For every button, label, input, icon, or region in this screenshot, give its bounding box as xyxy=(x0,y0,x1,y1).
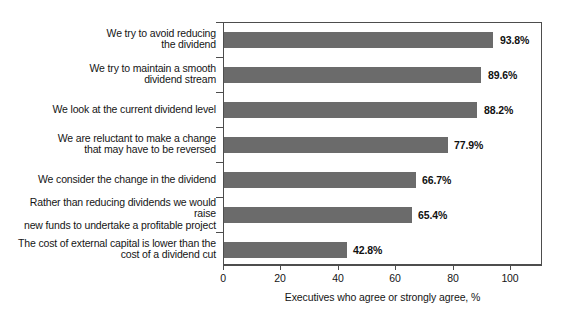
x-axis-tick-label: 60 xyxy=(389,272,400,284)
y-axis-tick xyxy=(216,22,223,23)
y-axis-label: We try to maintain a smooth dividend str… xyxy=(8,63,216,87)
x-axis-tick-label: 20 xyxy=(274,272,285,284)
y-axis-tick xyxy=(216,232,223,233)
x-axis-tick xyxy=(223,265,224,270)
x-axis-tick-label: 80 xyxy=(447,272,458,284)
x-axis-tick-label: 100 xyxy=(501,272,518,284)
bar-value-label: 93.8% xyxy=(500,34,529,46)
x-axis-tick xyxy=(510,265,511,270)
x-axis-tick xyxy=(453,265,454,270)
bar-value-label: 66.7% xyxy=(422,174,451,186)
chart-row: We look at the current dividend level 88… xyxy=(0,92,563,127)
bar-value-label: 77.9% xyxy=(454,139,483,151)
bar-chart: We try to avoid reducing the dividend 93… xyxy=(0,0,563,318)
bar xyxy=(224,102,477,118)
y-axis-tick xyxy=(216,57,223,58)
chart-row: We try to avoid reducing the dividend 93… xyxy=(0,22,563,57)
y-axis-tick xyxy=(216,92,223,93)
bar xyxy=(224,32,493,48)
y-axis-tick xyxy=(216,162,223,163)
x-axis-tick xyxy=(395,265,396,270)
y-axis-label: We are reluctant to make a change that m… xyxy=(8,133,216,157)
bar-value-label: 65.4% xyxy=(418,209,447,221)
x-axis-tick-label: 40 xyxy=(332,272,343,284)
chart-row: The cost of external capital is lower th… xyxy=(0,232,563,267)
bar xyxy=(224,242,347,258)
y-axis-label: The cost of external capital is lower th… xyxy=(8,238,216,262)
bar xyxy=(224,67,481,83)
y-axis-tick xyxy=(216,197,223,198)
y-axis-label: We consider the change in the dividend xyxy=(8,174,216,186)
bar xyxy=(224,137,448,153)
chart-row: We consider the change in the dividend 6… xyxy=(0,162,563,197)
bar-value-label: 89.6% xyxy=(488,69,517,81)
y-axis-label: Rather than reducing dividends we would … xyxy=(8,197,216,232)
y-axis-label: We look at the current dividend level xyxy=(8,104,216,116)
bar-value-label: 88.2% xyxy=(484,104,513,116)
bar xyxy=(224,172,416,188)
x-axis-title: Executives who agree or strongly agree, … xyxy=(223,291,542,303)
bar-value-label: 42.8% xyxy=(353,244,382,256)
chart-row: We are reluctant to make a change that m… xyxy=(0,127,563,162)
chart-row: Rather than reducing dividends we would … xyxy=(0,197,563,232)
chart-row: We try to maintain a smooth dividend str… xyxy=(0,57,563,92)
x-axis-line xyxy=(223,265,542,266)
y-axis-label: We try to avoid reducing the dividend xyxy=(8,28,216,52)
bar xyxy=(224,207,412,223)
x-axis-tick-label: 0 xyxy=(220,272,226,284)
y-axis-tick xyxy=(216,127,223,128)
x-axis-tick xyxy=(280,265,281,270)
x-axis-tick xyxy=(338,265,339,270)
